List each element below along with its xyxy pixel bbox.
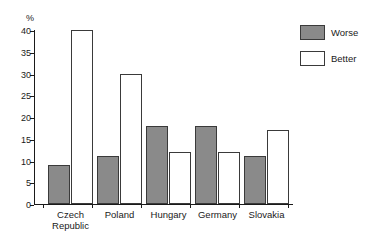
legend-label: Worse [331, 28, 358, 38]
bar-better [169, 152, 191, 204]
x-axis-category-label: Czech Republic [52, 209, 89, 231]
legend-swatch-better [300, 51, 325, 66]
x-axis-tick-mark [92, 204, 93, 208]
plot-area: 0510152025303540 Czech RepublicPolandHun… [34, 30, 293, 205]
bar-worse [146, 126, 168, 204]
bar-group: Czech Republic [48, 30, 93, 204]
bar-chart: % 0510152025303540 Czech RepublicPolandH… [0, 0, 373, 243]
y-axis-tick-label: 15 [21, 135, 31, 144]
x-axis-category-label: Slovakia [249, 209, 285, 220]
y-axis-tick-label: 20 [21, 114, 31, 123]
x-axis-category-label: Hungary [151, 209, 187, 220]
x-axis-tick-mark [43, 204, 44, 208]
y-axis-unit-label: % [26, 14, 34, 23]
legend-label: Better [331, 54, 356, 64]
y-axis-tick-label: 40 [21, 27, 31, 36]
legend-swatch-worse [300, 25, 325, 40]
y-axis-tick-label: 25 [21, 92, 31, 101]
x-axis-tick-mark [288, 204, 289, 208]
y-axis-line [34, 30, 35, 205]
y-axis-tick-label: 35 [21, 48, 31, 57]
bar-better [218, 152, 240, 204]
legend-item: Better [300, 51, 358, 66]
y-axis-tick-label: 30 [21, 70, 31, 79]
bar-worse [244, 156, 266, 204]
legend: WorseBetter [300, 25, 358, 77]
x-axis-tick-mark [239, 204, 240, 208]
x-axis-tick-mark [190, 204, 191, 208]
bar-better [71, 30, 93, 204]
legend-item: Worse [300, 25, 358, 40]
bar-worse [48, 165, 70, 204]
x-axis-category-label: Germany [198, 209, 237, 220]
y-axis-tick-label: 5 [26, 179, 31, 188]
bar-group: Hungary [146, 30, 191, 204]
y-axis-tick-label: 0 [26, 201, 31, 210]
y-axis-tick-label: 10 [21, 157, 31, 166]
x-axis-line [34, 204, 293, 205]
x-axis-category-label: Poland [105, 209, 135, 220]
bar-group: Germany [195, 30, 240, 204]
bar-group: Slovakia [244, 30, 289, 204]
bar-worse [195, 126, 217, 204]
bar-better [267, 130, 289, 204]
bar-group: Poland [97, 30, 142, 204]
bar-better [120, 74, 142, 205]
x-axis-tick-mark [141, 204, 142, 208]
bar-worse [97, 156, 119, 204]
